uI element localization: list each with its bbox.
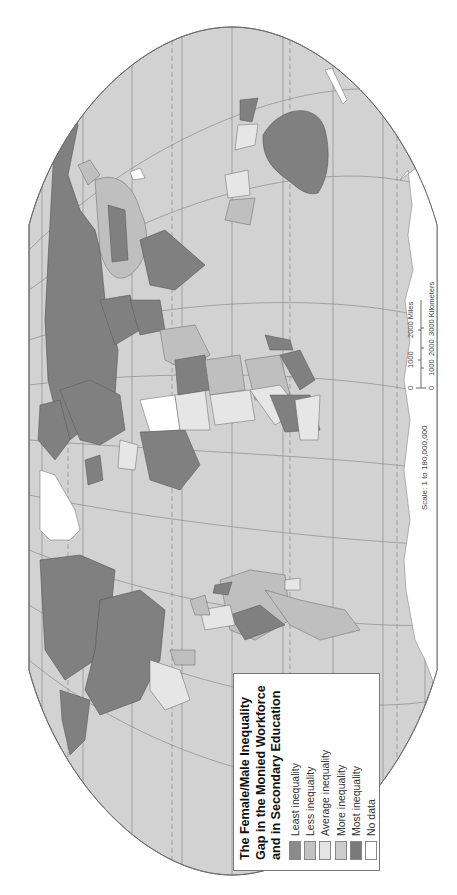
legend-item-no-data: No data: [363, 750, 378, 860]
legend-item-average: Average inequality: [318, 750, 333, 860]
swatch-average: [319, 841, 331, 860]
swatch-more: [335, 841, 347, 860]
scale-ratio: Scale: 1 to 180,000,000: [420, 425, 429, 510]
swatch-most: [350, 841, 362, 860]
spain: [118, 440, 138, 470]
swatch-no-data: [365, 841, 377, 860]
legend: The Female/Male Inequality Gap in the Mo…: [233, 673, 380, 871]
libya: [175, 390, 210, 430]
world-map: [0, 0, 457, 895]
legend-item-most: Most inequality: [348, 750, 363, 860]
chile: [285, 578, 300, 590]
legend-item-more: More inequality: [333, 750, 348, 860]
philippines: [225, 170, 250, 198]
uk: [85, 455, 103, 485]
legend-item-less: Less inequality: [302, 750, 317, 860]
scale-bar: Scale: 1 to 180,000,000 0 1000 2000 Mile…: [402, 180, 440, 510]
swatch-less: [304, 841, 316, 860]
malaysia: [225, 198, 255, 225]
egypt: [175, 355, 210, 395]
legend-title: The Female/Male Inequality Gap in the Mo…: [238, 676, 285, 860]
chad: [210, 390, 255, 425]
swatch-least: [289, 841, 301, 860]
legend-item-least: Least inequality: [287, 750, 302, 860]
sudan: [205, 355, 245, 395]
legend-items: Least inequality Less inequality Average…: [287, 750, 379, 860]
